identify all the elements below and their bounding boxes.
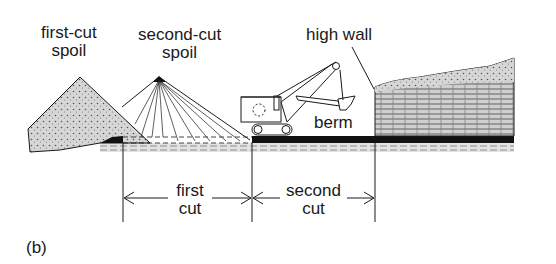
second-cut-spoil-pile — [122, 76, 252, 143]
high-wall-label: high wall — [306, 26, 372, 44]
label-line: second — [280, 182, 347, 200]
first-cut-spoil-label: first-cut spoil — [41, 24, 97, 60]
label-line: first — [168, 182, 212, 200]
high-wall-leader — [352, 47, 374, 89]
berm-label: berm — [314, 114, 353, 132]
label-line: spoil — [41, 42, 97, 60]
coal-seam — [252, 136, 514, 143]
panel-label: (b) — [26, 239, 47, 257]
second-cut-label: second cut — [280, 182, 347, 218]
label-line: first-cut — [41, 24, 97, 42]
label-line: cut — [280, 200, 347, 218]
underburden-layer — [100, 143, 514, 152]
label-line: spoil — [138, 44, 221, 62]
label-line: cut — [168, 200, 212, 218]
first-cut-label: first cut — [168, 182, 212, 218]
first-cut-spoil-pile — [28, 77, 150, 152]
label-line: second-cut — [138, 26, 221, 44]
second-cut-spoil-label: second-cut spoil — [138, 26, 221, 62]
overburden-high-wall — [375, 58, 514, 136]
